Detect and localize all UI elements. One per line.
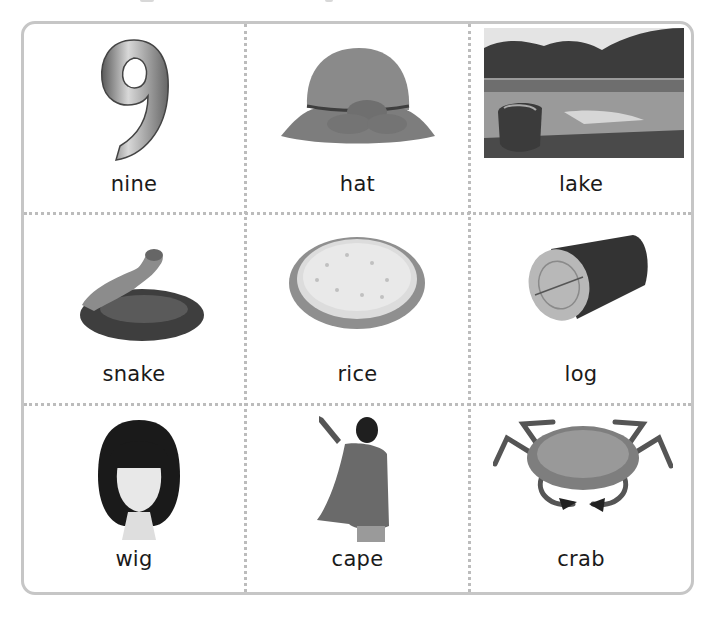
card-cape: cape	[247, 406, 468, 592]
word-label: wig	[24, 547, 244, 571]
card-crab: crab	[471, 406, 691, 592]
card-nine: nine	[24, 24, 244, 212]
card-snake: snake	[24, 215, 244, 403]
card-rice: rice	[247, 215, 468, 403]
word-label: log	[471, 362, 691, 386]
nine-balloon-icon	[94, 34, 174, 166]
word-label: snake	[24, 362, 244, 386]
word-label: nine	[24, 172, 244, 196]
wig-icon	[94, 416, 184, 541]
crab-icon	[493, 414, 673, 519]
card-log: log	[471, 215, 691, 403]
word-label: crab	[471, 547, 691, 571]
lake-photo-icon	[484, 28, 684, 158]
card-lake: lake	[471, 24, 691, 212]
word-label: hat	[247, 172, 468, 196]
hat-icon	[277, 38, 437, 148]
child-cape-icon	[315, 414, 395, 544]
snake-icon	[74, 245, 204, 345]
card-wig: wig	[24, 406, 244, 592]
card-hat: hat	[247, 24, 468, 212]
cropped-header-fragment	[0, 0, 707, 8]
word-label: rice	[247, 362, 468, 386]
word-label: cape	[247, 547, 468, 571]
log-icon	[521, 229, 651, 329]
rice-plate-icon	[287, 225, 427, 335]
word-label: lake	[471, 172, 691, 196]
picture-word-grid: nine hat lake	[21, 21, 694, 595]
